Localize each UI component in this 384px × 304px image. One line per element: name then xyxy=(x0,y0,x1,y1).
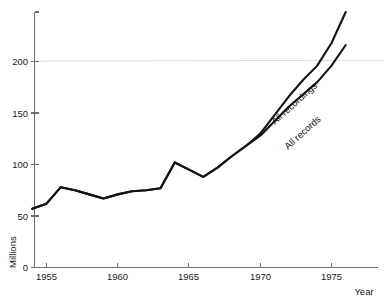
y-tick-label-150: 150 xyxy=(12,108,28,119)
y-tick-label-200: 200 xyxy=(12,56,28,67)
chart-canvas: 200 150 100 50 0 1955 1960 1965 1970 197… xyxy=(0,0,384,304)
y-tick-label-0: 0 xyxy=(23,262,28,273)
scan-artifact-line xyxy=(34,60,384,61)
x-tick-label-1965: 1965 xyxy=(178,271,199,282)
x-tick-label-1960: 1960 xyxy=(107,271,128,282)
x-axis-ticks xyxy=(47,263,332,268)
series-line-all-records xyxy=(32,45,346,209)
line-chart: 200 150 100 50 0 1955 1960 1965 1970 197… xyxy=(0,0,384,304)
y-tick-label-50: 50 xyxy=(17,211,28,222)
x-tick-label-1955: 1955 xyxy=(36,271,57,282)
x-tick-label-1970: 1970 xyxy=(250,271,271,282)
series-label-all-records: All records xyxy=(282,113,323,151)
x-tick-label-1975: 1975 xyxy=(321,271,342,282)
x-axis-title: Year xyxy=(354,286,373,297)
series-line-all-recordings xyxy=(32,12,346,209)
y-axis-title: Millions xyxy=(7,236,18,268)
y-tick-label-100: 100 xyxy=(12,159,28,170)
